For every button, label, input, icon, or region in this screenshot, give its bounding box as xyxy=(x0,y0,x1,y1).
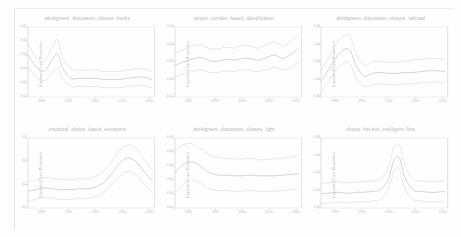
confidence-band-line xyxy=(28,39,152,71)
y-tick-label: 0.04 xyxy=(314,171,320,174)
x-tick-label: 2020 xyxy=(292,211,300,214)
confidence-band-line xyxy=(28,145,152,182)
confidence-band-line xyxy=(175,180,299,193)
confidence-band-line xyxy=(321,62,445,92)
x-tick-label: 2000 xyxy=(92,211,100,214)
y-tick-label: -0.02 xyxy=(166,95,174,98)
panel-title: choice, hot-mix, intelligent, flow xyxy=(307,128,454,133)
x-tick-label: 2000 xyxy=(385,100,393,103)
y-tick-label: 0.04 xyxy=(167,43,173,46)
x-tick-label: 2010 xyxy=(265,100,273,103)
y-tick-label: 0.02 xyxy=(167,60,173,63)
axes-frame xyxy=(321,138,448,208)
confidence-band-line xyxy=(321,144,445,184)
confidence-band-line xyxy=(175,61,299,77)
panel-title: airport, corridor, based, identification xyxy=(161,17,308,22)
mean-line xyxy=(175,162,299,176)
panel-title: abridgment, discussion, closure, railroa… xyxy=(307,17,454,22)
x-tick-label: 2020 xyxy=(439,211,447,214)
confidence-band-line xyxy=(321,168,445,204)
chart-panel: choice, hot-mix, intelligent, flowExpect… xyxy=(307,119,454,230)
x-tick-label: 2000 xyxy=(92,100,100,103)
y-tick-label: 0.01 xyxy=(20,81,26,84)
x-tick-label: 2010 xyxy=(119,211,127,214)
plot-area: 198019902000201020200.000.020.040.060.08 xyxy=(321,27,448,97)
x-tick-label: 1990 xyxy=(65,211,73,214)
x-tick-label: 2000 xyxy=(238,100,246,103)
panel-title: empirical, choice, based, emissions xyxy=(14,128,161,133)
x-tick-label: 1980 xyxy=(331,100,339,103)
plot-area: 19801990200020102020-0.020.000.020.040.0… xyxy=(175,138,302,208)
y-tick-label: 0.02 xyxy=(167,178,173,181)
y-tick-label: 0.08 xyxy=(314,25,320,28)
x-tick-label: 1980 xyxy=(38,100,46,103)
plot-svg xyxy=(175,138,302,208)
x-tick-label: 2010 xyxy=(119,100,127,103)
chart-panel: abridgment, discussion, closure, trucksE… xyxy=(14,8,161,119)
confidence-band-line xyxy=(175,143,299,159)
x-tick-label: 1980 xyxy=(184,211,192,214)
x-tick-label: 1980 xyxy=(38,211,46,214)
x-tick-label: 2020 xyxy=(292,100,300,103)
axes-frame xyxy=(175,138,302,208)
y-tick-label: 0.4 xyxy=(22,160,27,163)
plot-area: 198019902000201020200.00.20.40.6 xyxy=(28,138,155,208)
x-tick-label: 2010 xyxy=(412,211,420,214)
y-tick-label: 0.02 xyxy=(314,189,320,192)
x-tick-label: 2020 xyxy=(439,100,447,103)
x-tick-label: 1990 xyxy=(358,100,366,103)
x-tick-label: 1980 xyxy=(331,211,339,214)
confidence-band-line xyxy=(175,34,299,53)
mean-line xyxy=(175,48,299,66)
x-tick-label: 2010 xyxy=(265,211,273,214)
chart-panel: abridgment, discussion, closure, lightEx… xyxy=(161,119,308,230)
axes-frame xyxy=(321,27,448,97)
x-tick-label: 1980 xyxy=(184,100,192,103)
y-tick-label: 0.02 xyxy=(314,78,320,81)
plot-svg xyxy=(321,27,448,97)
y-tick-label: -0.02 xyxy=(166,206,174,209)
y-tick-label: 0.00 xyxy=(314,206,320,209)
y-tick-label: 0.08 xyxy=(314,136,320,139)
panel-title: abridgment, discussion, closure, trucks xyxy=(14,17,161,22)
chart-panel: abridgment, discussion, closure, railroa… xyxy=(307,8,454,119)
y-tick-label: 0.0 xyxy=(22,206,27,209)
mean-line xyxy=(28,158,152,191)
x-tick-label: 1990 xyxy=(65,100,73,103)
panel-title: abridgment, discussion, closure, light xyxy=(161,128,308,133)
x-tick-label: 2020 xyxy=(145,100,153,103)
plot-area: 19801990200020102020-0.020.000.020.040.0… xyxy=(175,27,302,97)
mean-line xyxy=(28,54,152,80)
plot-area: 198019902000201020200.000.020.040.060.08 xyxy=(321,138,448,208)
y-tick-label: 0.04 xyxy=(20,39,26,42)
y-tick-label: 0.00 xyxy=(167,192,173,195)
mean-line xyxy=(321,156,445,194)
x-tick-label: 2010 xyxy=(412,100,420,103)
x-tick-label: 2020 xyxy=(145,211,153,214)
y-tick-label: 0.6 xyxy=(22,136,27,139)
y-tick-label: 0.04 xyxy=(314,60,320,63)
y-tick-label: 0.03 xyxy=(20,53,26,56)
y-tick-label: 0.06 xyxy=(167,25,173,28)
x-tick-label: 2000 xyxy=(385,211,393,214)
y-tick-label: 0.06 xyxy=(314,154,320,157)
chart-panel: empirical, choice, based, emissionsExpec… xyxy=(14,119,161,230)
plot-svg xyxy=(321,138,448,208)
plot-area: 198019902000201020200.000.010.020.030.04… xyxy=(28,27,155,97)
x-tick-label: 1990 xyxy=(211,211,219,214)
plot-svg xyxy=(28,138,155,208)
y-tick-label: 0.2 xyxy=(22,183,27,186)
y-tick-label: 0.05 xyxy=(20,25,26,28)
small-multiples-grid: abridgment, discussion, closure, trucksE… xyxy=(14,8,454,230)
y-tick-label: 0.06 xyxy=(167,150,173,153)
y-tick-label: 0.06 xyxy=(314,43,320,46)
y-tick-label: 0.08 xyxy=(167,136,173,139)
y-tick-label: 0.02 xyxy=(20,67,26,70)
y-tick-label: 0.00 xyxy=(167,78,173,81)
x-tick-label: 1990 xyxy=(358,211,366,214)
y-tick-label: 0.00 xyxy=(314,95,320,98)
plot-svg xyxy=(175,27,302,97)
y-tick-label: 0.04 xyxy=(167,164,173,167)
x-tick-label: 2000 xyxy=(238,211,246,214)
confidence-band-line xyxy=(28,171,152,201)
